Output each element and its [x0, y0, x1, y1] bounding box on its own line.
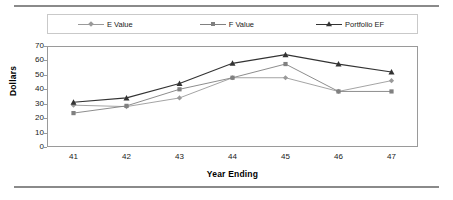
data-point-square-icon	[389, 89, 393, 93]
y-tick-label: 30	[28, 100, 44, 108]
x-axis-label: Year Ending	[47, 169, 418, 179]
x-tick-label: 44	[221, 152, 245, 162]
plot-area	[47, 46, 418, 147]
legend-label-f-value: F Value	[229, 20, 254, 29]
legend-marker-diamond-icon	[78, 20, 104, 29]
legend-marker-square-icon	[200, 20, 226, 29]
bottom-divider-rule	[14, 186, 439, 188]
data-point-square-icon	[336, 89, 340, 93]
y-tick-label: 10	[28, 129, 44, 137]
legend-label-portfolio-ef: Portfolio EF	[345, 20, 384, 29]
y-tick-label: 40	[28, 85, 44, 93]
y-axis-label: Dollars	[8, 59, 18, 103]
series-e-value	[71, 75, 394, 109]
plot-series-svg	[47, 46, 418, 147]
x-tick-label: 42	[115, 152, 139, 162]
legend-item-portfolio-ef[interactable]: Portfolio EF	[316, 20, 384, 29]
x-tick-label: 41	[62, 152, 86, 162]
x-tick-label: 43	[168, 152, 192, 162]
y-tick-label: 70	[28, 42, 44, 50]
series-f-value	[71, 62, 393, 115]
legend-item-e-value[interactable]: E Value	[78, 20, 133, 29]
x-tick-label: 46	[327, 152, 351, 162]
y-tick-label: 50	[28, 71, 44, 79]
x-axis-ticks: 41424344454647	[47, 152, 418, 164]
y-tick-mark	[44, 147, 47, 148]
y-axis-ticks: 706050403020100	[25, 46, 44, 147]
x-tick-label: 45	[274, 152, 298, 162]
series-line	[74, 78, 392, 107]
data-point-diamond-icon	[283, 75, 288, 80]
data-point-diamond-icon	[177, 95, 182, 100]
y-tick-label: 20	[28, 114, 44, 122]
y-tick-label: 0	[28, 143, 44, 151]
data-point-square-icon	[230, 76, 234, 80]
chart-legend: E Value F Value Portfolio EF	[47, 14, 418, 34]
y-tick-label: 60	[28, 56, 44, 64]
legend-marker-triangle-icon	[316, 20, 342, 29]
legend-item-f-value[interactable]: F Value	[200, 20, 254, 29]
data-point-diamond-icon	[389, 78, 394, 83]
data-point-square-icon	[124, 104, 128, 108]
chart-figure: E Value F Value Portfolio EF Dollars 706…	[0, 0, 453, 200]
data-point-square-icon	[283, 62, 287, 66]
data-point-square-icon	[71, 111, 75, 115]
series-line	[74, 64, 392, 113]
legend-label-e-value: E Value	[107, 20, 133, 29]
top-divider-rule	[14, 5, 439, 7]
x-tick-label: 47	[380, 152, 404, 162]
data-point-square-icon	[177, 87, 181, 91]
